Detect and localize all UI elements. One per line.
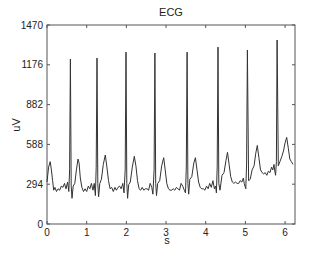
y-tick-label: 588: [26, 139, 43, 150]
x-tick-label: 0: [44, 227, 50, 238]
y-tick-label: 882: [26, 99, 43, 110]
plot-area: 0123456 029458888211761470: [21, 20, 295, 239]
y-axis-label: uV: [10, 118, 22, 132]
chart-title: ECG: [159, 6, 183, 18]
x-axis-label: s: [164, 234, 170, 246]
x-tick-label: 6: [282, 227, 288, 238]
y-tick-label: 294: [26, 179, 43, 190]
x-tick-label: 1: [84, 227, 90, 238]
y-tick-label: 0: [37, 219, 43, 230]
x-tick-label: 2: [124, 227, 130, 238]
y-tick-label: 1470: [21, 20, 44, 31]
x-tick-label: 5: [243, 227, 249, 238]
ecg-chart: ECG 0123456 029458888211761470 s uV: [0, 0, 309, 256]
y-tick-label: 1176: [21, 59, 43, 70]
x-tick-label: 4: [203, 227, 209, 238]
plot-frame: [47, 25, 295, 224]
